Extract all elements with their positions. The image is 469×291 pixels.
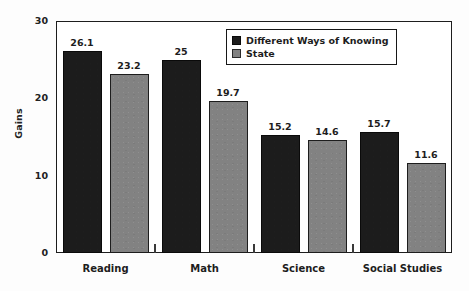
bar-0-series-1[interactable]	[110, 74, 149, 253]
bar-3-series-0[interactable]	[360, 132, 399, 253]
bar-value-label: 25	[154, 46, 209, 57]
x-axis-tick-mark	[352, 244, 354, 253]
bar-1-series-0[interactable]	[162, 60, 201, 253]
legend-swatch-gray-icon	[232, 49, 241, 58]
y-axis-tick-label: 0	[22, 247, 48, 258]
bar-2-series-1[interactable]	[308, 140, 347, 253]
bar-value-label: 15.7	[352, 118, 407, 129]
x-axis-category-label: Reading	[56, 263, 155, 274]
bar-value-label: 11.6	[399, 149, 454, 160]
bar-3-series-1[interactable]	[407, 163, 446, 253]
y-axis-tick-label: 10	[22, 170, 48, 181]
chart-legend: Different Ways of Knowing State	[226, 29, 397, 65]
y-axis-tick-label: 20	[22, 92, 48, 103]
legend-item-different-ways-of-knowing[interactable]: Different Ways of Knowing	[232, 34, 389, 47]
x-axis-category-label: Math	[155, 263, 254, 274]
x-axis-tick-mark	[154, 244, 156, 253]
y-axis-tick-label: 30	[22, 15, 48, 26]
legend-swatch-black-icon	[232, 36, 241, 45]
x-axis-category-label: Science	[254, 263, 353, 274]
bar-2-series-0[interactable]	[261, 135, 300, 253]
bar-0-series-0[interactable]	[63, 51, 102, 253]
legend-label-series-1: State	[246, 48, 275, 59]
x-axis-tick-mark	[253, 244, 255, 253]
legend-item-state[interactable]: State	[232, 47, 389, 60]
bar-value-label: 26.1	[55, 37, 110, 48]
legend-label-series-0: Different Ways of Knowing	[246, 35, 389, 46]
bar-value-label: 23.2	[102, 60, 157, 71]
x-axis-category-label: Social Studies	[353, 263, 452, 274]
bar-value-label: 14.6	[300, 126, 355, 137]
bar-value-label: 19.7	[201, 87, 256, 98]
bar-chart: Gains 0102030 26.123.22519.715.214.615.7…	[0, 0, 469, 291]
bar-1-series-1[interactable]	[209, 101, 248, 253]
